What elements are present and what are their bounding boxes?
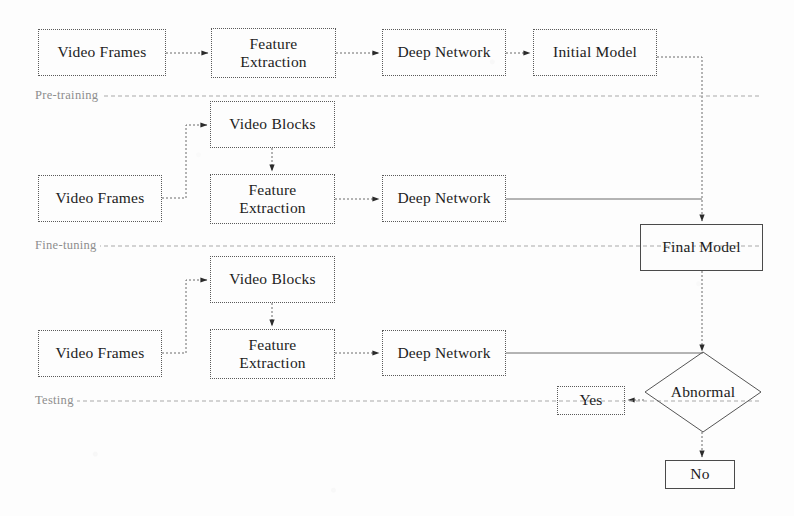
node-video-frames-2[interactable]: Video Frames bbox=[38, 175, 162, 222]
node-deep-network-3[interactable]: Deep Network bbox=[382, 330, 506, 376]
node-initial-model[interactable]: Initial Model bbox=[533, 29, 657, 76]
node-no-box[interactable]: No bbox=[665, 460, 735, 489]
section-label-testing: Testing bbox=[32, 393, 77, 408]
node-yes-box[interactable]: Yes bbox=[557, 386, 625, 415]
flowchart-canvas: Pre-training Fine-tuning Testing Video F… bbox=[0, 0, 794, 516]
node-label: Abnormal bbox=[645, 352, 761, 432]
node-label: Deep Network bbox=[395, 344, 492, 362]
node-label: Video Blocks bbox=[227, 270, 317, 288]
node-feature-extraction-2[interactable]: FeatureExtraction bbox=[210, 174, 335, 224]
node-label: Deep Network bbox=[395, 43, 492, 61]
edge-vf2-vb2 bbox=[162, 125, 207, 198]
node-video-frames-1[interactable]: Video Frames bbox=[38, 29, 166, 76]
node-deep-network-1[interactable]: Deep Network bbox=[382, 29, 506, 76]
edge-im-final-model bbox=[657, 57, 702, 221]
node-feature-extraction-1[interactable]: FeatureExtraction bbox=[211, 28, 336, 78]
node-video-blocks-3[interactable]: Video Blocks bbox=[210, 256, 335, 303]
node-label: FeatureExtraction bbox=[237, 336, 308, 373]
node-deep-network-2[interactable]: Deep Network bbox=[382, 175, 506, 222]
node-label: No bbox=[688, 465, 711, 483]
node-video-frames-3[interactable]: Video Frames bbox=[38, 330, 162, 377]
node-label: FeatureExtraction bbox=[238, 35, 309, 72]
node-label: Final Model bbox=[660, 238, 742, 256]
node-label: Deep Network bbox=[395, 189, 492, 207]
node-video-blocks-2[interactable]: Video Blocks bbox=[210, 101, 335, 148]
node-final-model[interactable]: Final Model bbox=[640, 224, 763, 271]
node-feature-extraction-3[interactable]: FeatureExtraction bbox=[210, 329, 335, 379]
node-abnormal-decision[interactable]: Abnormal bbox=[645, 352, 761, 432]
node-label: Video Blocks bbox=[227, 115, 317, 133]
node-label: Yes bbox=[577, 391, 604, 409]
node-label: Video Frames bbox=[54, 189, 147, 207]
section-label-pre-training: Pre-training bbox=[32, 88, 101, 103]
node-label: FeatureExtraction bbox=[237, 181, 308, 218]
node-label: Initial Model bbox=[551, 43, 639, 61]
node-label: Video Frames bbox=[56, 43, 149, 61]
edge-vf3-vb3 bbox=[162, 280, 207, 353]
section-label-fine-tuning: Fine-tuning bbox=[32, 238, 100, 253]
node-label: Video Frames bbox=[54, 344, 147, 362]
